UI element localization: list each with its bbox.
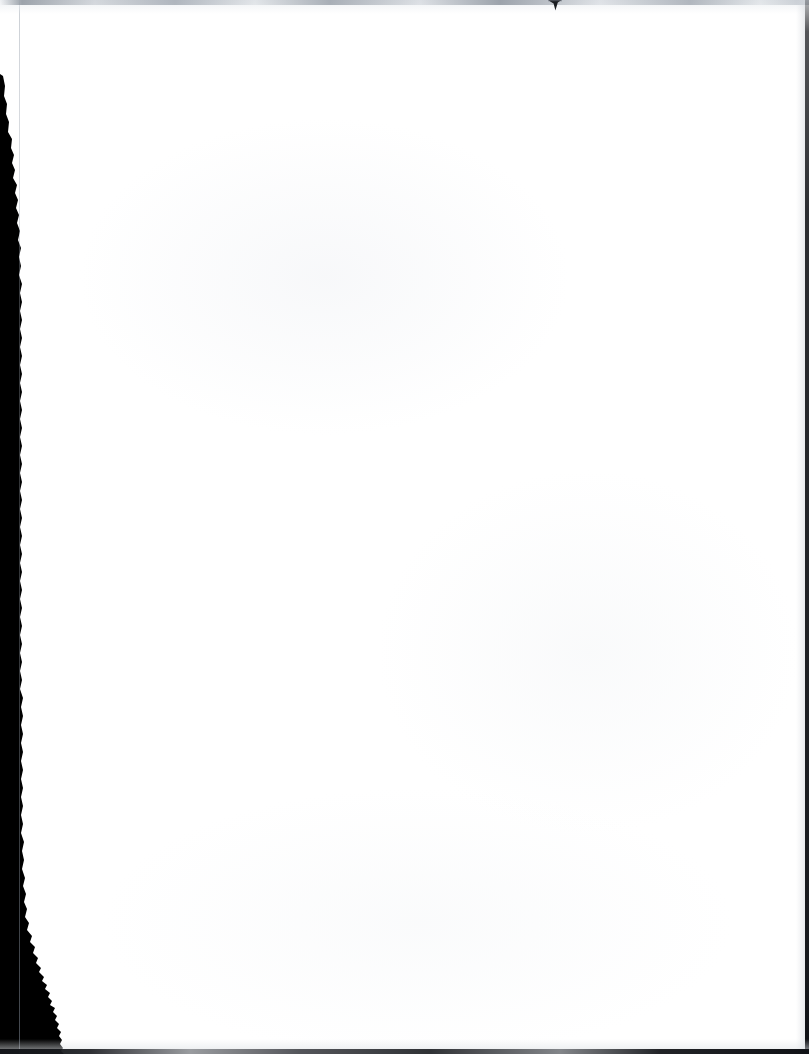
left-scanner-shadow-band (0, 0, 120, 1054)
scanned-page (0, 0, 809, 1054)
paper-surface (0, 0, 809, 1054)
